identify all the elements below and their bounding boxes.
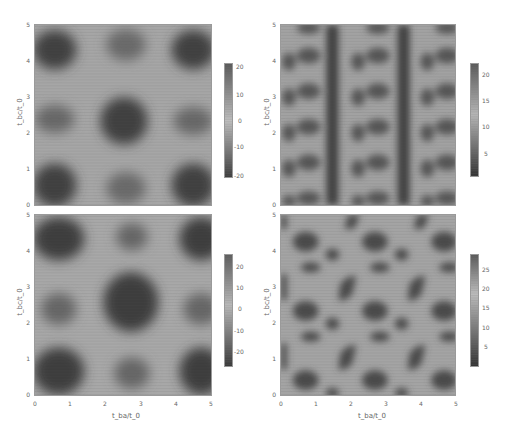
y-tick: 0 <box>266 201 276 208</box>
y-tick: 5 <box>266 21 276 28</box>
colorbar-tick: 5 <box>484 150 488 157</box>
colorbar-tick: 25 <box>482 266 490 273</box>
x-tick: 3 <box>381 400 391 407</box>
y-tick: 2 <box>266 129 276 136</box>
y-tick: 0 <box>20 201 30 208</box>
y-axis-label: t_bc/t_0 <box>16 98 24 126</box>
contour-plot <box>281 25 455 205</box>
y-tick: 5 <box>266 211 276 218</box>
contour-plot <box>35 25 211 205</box>
y-tick: 3 <box>266 283 276 290</box>
plot-top-left: t_bc/t_0 5 4 3 2 1 0 20 10 0 -10 -20 <box>0 0 253 210</box>
y-axis-label: t_bc/t_0 <box>263 288 271 316</box>
plot-area-bottom-left <box>34 214 212 396</box>
y-tick: 3 <box>20 283 30 290</box>
y-tick: 5 <box>20 211 30 218</box>
y-tick: 0 <box>20 391 30 398</box>
colorbar-tick: 20 <box>482 285 490 292</box>
contour-plot <box>35 215 211 395</box>
plot-area-top-right <box>280 24 456 206</box>
y-tick: 4 <box>266 247 276 254</box>
colorbar <box>224 63 233 178</box>
x-tick: 4 <box>416 400 426 407</box>
x-tick: 5 <box>451 400 461 407</box>
y-tick: 4 <box>20 57 30 64</box>
colorbar-tick: 10 <box>236 284 244 291</box>
colorbar-tick: -20 <box>234 172 244 179</box>
colorbar-tick: 10 <box>482 324 490 331</box>
colorbar-tick: -10 <box>234 327 244 334</box>
y-tick: 4 <box>266 57 276 64</box>
plot-area-top-left <box>34 24 212 206</box>
colorbar-tick: 20 <box>236 63 244 70</box>
contour-plot <box>281 215 455 395</box>
x-axis-label: t_ba/t_0 <box>358 412 386 420</box>
plot-top-right: t_bc/t_0 5 4 3 2 1 0 20 15 10 5 <box>253 0 506 210</box>
x-axis-label: t_ba/t_0 <box>112 412 140 420</box>
y-axis-label: t_bc/t_0 <box>16 288 24 316</box>
colorbar-tick: -20 <box>234 348 244 355</box>
colorbar-tick: 20 <box>482 71 490 78</box>
y-tick: 5 <box>20 21 30 28</box>
x-tick: 4 <box>171 400 181 407</box>
y-tick: 4 <box>20 247 30 254</box>
y-tick: 2 <box>20 319 30 326</box>
x-tick: 0 <box>276 400 286 407</box>
x-tick: 1 <box>311 400 321 407</box>
plot-bottom-left: t_bc/t_0 5 4 3 2 1 0 0 1 2 3 4 5 t_ba/t_… <box>0 210 253 431</box>
colorbar-tick: 10 <box>236 91 244 98</box>
y-tick: 3 <box>266 93 276 100</box>
colorbar <box>224 254 233 367</box>
plot-bottom-right: t_bc/t_0 5 4 3 2 1 0 0 1 2 3 4 5 t_ba/t_… <box>253 210 506 431</box>
colorbar <box>470 254 479 367</box>
y-axis-label: t_bc/t_0 <box>263 98 271 126</box>
x-tick: 0 <box>30 400 40 407</box>
colorbar-tick: 5 <box>484 343 488 350</box>
y-tick: 3 <box>20 93 30 100</box>
y-tick: 1 <box>266 355 276 362</box>
colorbar-tick: 10 <box>482 123 490 130</box>
x-tick: 2 <box>100 400 110 407</box>
y-tick: 1 <box>20 355 30 362</box>
colorbar-tick: 20 <box>236 263 244 270</box>
colorbar-tick: -10 <box>234 143 244 150</box>
colorbar-tick: 0 <box>238 305 242 312</box>
colorbar-tick: 15 <box>482 97 490 104</box>
colorbar <box>470 63 479 177</box>
y-tick: 1 <box>266 165 276 172</box>
y-tick: 2 <box>266 319 276 326</box>
colorbar-tick: 15 <box>482 304 490 311</box>
x-tick: 1 <box>65 400 75 407</box>
plot-area-bottom-right <box>280 214 456 396</box>
y-tick: 2 <box>20 129 30 136</box>
colorbar-tick: 0 <box>238 117 242 124</box>
x-tick: 5 <box>206 400 216 407</box>
x-tick: 2 <box>346 400 356 407</box>
y-tick: 0 <box>266 391 276 398</box>
x-tick: 3 <box>136 400 146 407</box>
y-tick: 1 <box>20 165 30 172</box>
